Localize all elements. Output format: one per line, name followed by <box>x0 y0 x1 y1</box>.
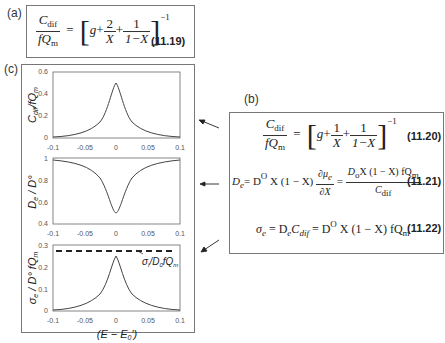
equation-box-b: Cdif fQm = [g+1X+11−X]−1 (11.20) De= DO … <box>229 112 444 254</box>
svg-text:0.1: 0.1 <box>175 230 185 237</box>
svg-text:0.2: 0.2 <box>38 112 48 119</box>
svg-text:0.2: 0.2 <box>38 264 48 271</box>
svg-text:0.1: 0.1 <box>175 144 185 151</box>
svg-text:-0.1: -0.1 <box>47 230 59 237</box>
svg-text:-0.1: -0.1 <box>47 144 59 151</box>
arrow-to-top-plot <box>202 121 219 128</box>
svg-text:0.05: 0.05 <box>141 144 155 151</box>
plot-sigma: 0.30.20.10 -0.1-0.0500.050.1 σe / D° fQm… <box>26 242 185 324</box>
svg-text:-0.05: -0.05 <box>77 230 93 237</box>
svg-text:0: 0 <box>44 307 48 314</box>
svg-text:0: 0 <box>114 144 118 151</box>
svg-text:0.6: 0.6 <box>38 68 48 75</box>
svg-text:0.1: 0.1 <box>38 286 48 293</box>
svg-text:-0.05: -0.05 <box>77 317 93 324</box>
arrows <box>199 120 219 252</box>
panel-b-label: (b) <box>244 92 259 106</box>
svg-text:0: 0 <box>44 134 48 141</box>
svg-text:-0.1: -0.1 <box>47 317 59 324</box>
svg-text:0.1: 0.1 <box>175 317 185 324</box>
svg-text:0.4: 0.4 <box>38 90 48 97</box>
equation-11-21: De= DO X (1 − X) ∂μe∂X = DoX (1 − X) fQm… <box>232 165 421 200</box>
svg-text:-0.05: -0.05 <box>77 144 93 151</box>
equation-11-22: σe = DeCdif = DO X (1 − X) fQm <box>256 219 410 238</box>
svg-text:0.4: 0.4 <box>38 220 48 227</box>
equation-number-11-20: (11.20) <box>407 130 441 142</box>
svg-text:0.8: 0.8 <box>38 177 48 184</box>
svg-text:Cdif/fQm: Cdif/fQm <box>26 87 39 123</box>
x-axis-label: (E − E0′) <box>97 328 138 341</box>
plot-cdif: 0.60.40.20 -0.1-0.0500.050.1 Cdif/fQm <box>26 68 185 151</box>
svg-text:0: 0 <box>114 317 118 324</box>
svg-text:0.05: 0.05 <box>141 317 155 324</box>
equation-11-20: Cdif fQm = [g+1X+11−X]−1 <box>263 116 397 154</box>
svg-text:0.6: 0.6 <box>38 199 48 206</box>
svg-text:De / D°: De / D° <box>26 175 39 209</box>
svg-text:0.3: 0.3 <box>38 242 48 249</box>
svg-text:0.05: 0.05 <box>141 230 155 237</box>
svg-text:1: 1 <box>44 155 48 162</box>
equation-number-11-21: (11.21) <box>407 175 441 187</box>
plot-de: 10.80.60.4 -0.1-0.0500.050.1 De / D° <box>26 155 185 237</box>
svg-text:0: 0 <box>114 230 118 237</box>
arrow-to-bottom-plot <box>204 240 219 250</box>
svg-text:σe / D° fQm: σe / D° fQm <box>26 252 39 305</box>
equation-number-11-22: (11.22) <box>407 222 441 234</box>
reference-label: σl/D0fQm <box>142 256 178 268</box>
